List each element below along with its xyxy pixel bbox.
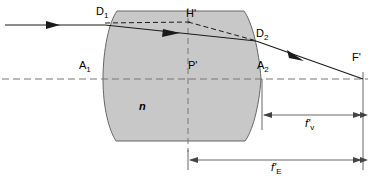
label-d1-main: D [96, 5, 104, 17]
label-h-prime-mark: ' [194, 7, 196, 19]
label-d2: D2 [256, 28, 268, 42]
label-a2: A2 [257, 60, 269, 74]
exit-ray [256, 41, 363, 79]
label-h-prime: H' [186, 8, 196, 19]
label-d1: D1 [96, 6, 108, 20]
label-refractive-index-text: n [139, 100, 146, 112]
label-f-prime: F' [352, 52, 361, 63]
optics-diagram-canvas [0, 0, 370, 180]
label-f-prime-main: F [352, 51, 359, 63]
label-d1-subscript: 1 [104, 11, 108, 20]
fe-dimension-arrow-right-outer [360, 157, 368, 163]
label-a1: A1 [79, 60, 91, 74]
exit-ray-arrowhead [287, 50, 304, 61]
optics-ray-diagram: D1 H' D2 F' A1 P' A2 n f'v f'E [0, 0, 370, 180]
label-p-prime: P' [188, 60, 197, 71]
label-fe-dimension: f'E [271, 162, 282, 176]
fv-dimension-arrow-left [263, 112, 272, 118]
label-refractive-index: n [139, 101, 146, 112]
label-fv-subscript: v [310, 123, 314, 132]
label-a1-subscript: 1 [86, 65, 90, 74]
lens-glass-body [103, 11, 261, 141]
label-p-prime-mark: ' [195, 59, 197, 71]
label-f-prime-mark: ' [359, 51, 361, 63]
label-fe-subscript: E [276, 167, 281, 176]
label-h-prime-main: H [186, 7, 194, 19]
incoming-ray-arrowhead [46, 21, 60, 29]
fv-dimension-arrow-right-outer [360, 112, 368, 118]
fe-dimension-arrow-left [189, 157, 198, 163]
label-d2-main: D [256, 27, 264, 39]
label-fv-dimension: f'v [305, 118, 314, 132]
label-a2-subscript: 2 [264, 65, 268, 74]
label-d2-subscript: 2 [264, 33, 268, 42]
